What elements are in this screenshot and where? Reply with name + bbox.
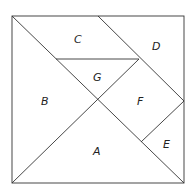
e-f-edge [141,101,184,142]
label-f: F [137,95,144,108]
label-g: G [93,71,102,84]
label-c: C [74,33,82,46]
d-edge [98,16,184,101]
label-a: A [92,145,101,158]
tangram-diagram: C D G B F E A [0,0,195,190]
label-b: B [41,95,49,108]
label-d: D [152,40,160,53]
label-e: E [163,138,170,151]
